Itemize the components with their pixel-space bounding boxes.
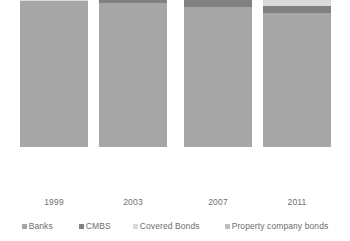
legend-item-banks[interactable]: Banks [22, 221, 53, 231]
stacked-bar-chart: 1999 2003 2007 2011 Banks [0, 0, 350, 241]
plot-area: 1999 2003 2007 2011 [0, 0, 350, 196]
bar-segment-banks[interactable] [99, 3, 167, 147]
bar-column-1999[interactable] [20, 0, 88, 147]
axis-tick-label-2003: 2003 [99, 197, 167, 207]
bar-segment-banks[interactable] [184, 7, 252, 147]
bar-segment-banks[interactable] [263, 13, 331, 147]
legend-label: Banks [29, 221, 53, 231]
legend-item-cmbs[interactable]: CMBS [79, 221, 111, 231]
axis-tick-label-1999: 1999 [20, 197, 88, 207]
chart-legend: Banks CMBS Covered Bonds Property compan… [0, 218, 350, 234]
bar-column-2003[interactable] [99, 0, 167, 147]
legend-item-covered-bonds[interactable]: Covered Bonds [133, 221, 200, 231]
legend-label: CMBS [86, 221, 111, 231]
bar-column-2007[interactable] [184, 0, 252, 147]
axis-tick-label-2007: 2007 [184, 197, 252, 207]
legend-item-property-company-bonds[interactable]: Property company bonds [225, 221, 329, 231]
legend-label: Property company bonds [232, 221, 329, 231]
legend-swatch-icon [22, 224, 27, 229]
legend-swatch-icon [225, 224, 230, 229]
bar-segment-cmbs[interactable] [263, 6, 331, 13]
legend-label: Covered Bonds [140, 221, 200, 231]
bar-column-2011[interactable] [263, 0, 331, 147]
axis-tick-label-2011: 2011 [263, 197, 331, 207]
bar-segment-cmbs[interactable] [184, 0, 252, 7]
legend-swatch-icon [133, 224, 138, 229]
bar-segment-banks[interactable] [20, 1, 88, 147]
legend-swatch-icon [79, 224, 84, 229]
